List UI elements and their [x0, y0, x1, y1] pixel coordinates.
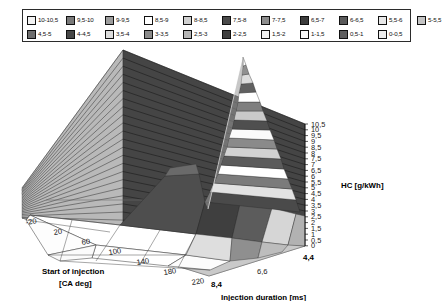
legend-label: 0-0,5: [389, 30, 402, 38]
legend-label: 4-4,5: [77, 30, 90, 38]
legend-item: 7,5-8: [222, 14, 261, 27]
legend-item: 3-3,5: [144, 28, 183, 41]
z-tick-label: 0: [311, 241, 315, 250]
legend-label: 8-8,5: [194, 16, 207, 24]
legend-label: 9,5-10: [77, 16, 94, 24]
legend-item: 0-0,5: [378, 28, 417, 41]
legend-label: 5,5-6: [389, 16, 402, 24]
x-tick-label: 60: [81, 237, 91, 247]
legend-label: 8,5-9: [155, 16, 168, 24]
legend-label: 1,5-2: [272, 30, 285, 38]
y-tick-label: 8,4: [211, 280, 223, 289]
legend-swatch-icon: [417, 16, 426, 25]
legend-item: 9,5-10: [66, 14, 105, 27]
legend-item: 4,5-5: [27, 28, 66, 41]
surface-plot-svg: 10,5 10 9,5 9 8,5 8 7,5 7 6,5 6 5,5 5 4,…: [0, 42, 432, 301]
legend-label: 0,5-1: [350, 30, 363, 38]
legend-item: 1,5-2: [261, 28, 300, 41]
legend-swatch-icon: [222, 16, 231, 25]
legend-item: 1-1,5: [300, 28, 339, 41]
x-tick-label: 20: [53, 227, 63, 237]
legend-row-1: 10-10,5 9,5-10 9-9,5 8,5-9 8-8,5 7,5-8 7…: [27, 13, 407, 27]
legend-item: 2,5-3: [183, 28, 222, 41]
legend-item: 8-8,5: [183, 14, 222, 27]
legend-swatch-icon: [66, 16, 75, 25]
z-axis-title: HC [g/kWh]: [341, 181, 384, 190]
legend-swatch-icon: [66, 30, 75, 39]
legend-swatch-icon: [261, 16, 270, 25]
legend-swatch-icon: [378, 16, 387, 25]
legend-swatch-icon: [105, 30, 114, 39]
legend-item: 7-7,5: [261, 14, 300, 27]
legend-item: 5,5-6: [378, 14, 417, 27]
y-tick-label: 6,6: [257, 267, 268, 276]
legend-item: 4-4,5: [66, 28, 105, 41]
legend-label: 6-6,5: [350, 16, 363, 24]
legend-label: 1-1,5: [311, 30, 324, 38]
x-tick-label: 140: [136, 256, 150, 267]
legend-swatch-icon: [339, 16, 348, 25]
x-tick-label: -20: [25, 216, 37, 227]
legend-swatch-icon: [300, 30, 309, 39]
legend-label: 9-9,5: [116, 16, 129, 24]
legend-item: 3,5-4: [105, 28, 144, 41]
legend-swatch-icon: [27, 16, 36, 25]
z-axis: 10,5 10 9,5 9 8,5 8 7,5 7 6,5 6 5,5 5 4,…: [305, 120, 384, 251]
x-axis-title-line2: [CA deg]: [59, 279, 92, 288]
x-tick-label: 220: [191, 276, 205, 287]
legend-item: 9-9,5: [105, 14, 144, 27]
legend-item: 5-5,5: [417, 14, 446, 27]
legend: 10-10,5 9,5-10 9-9,5 8,5-9 8-8,5 7,5-8 7…: [22, 9, 411, 42]
legend-item: 2-2,5: [222, 28, 261, 41]
legend-swatch-icon: [27, 30, 36, 39]
y-tick-label: 4,4: [303, 253, 315, 262]
legend-swatch-icon: [378, 30, 387, 39]
legend-item: 10-10,5: [27, 14, 66, 27]
legend-item: 6-6,5: [339, 14, 378, 27]
legend-swatch-icon: [183, 30, 192, 39]
x-axis-title-line1: Start of injection: [42, 267, 104, 276]
x-tick-label: 180: [163, 266, 177, 277]
left-wall: [22, 50, 123, 228]
legend-label: 3,5-4: [116, 30, 129, 38]
legend-swatch-icon: [144, 16, 153, 25]
legend-label: 2-2,5: [233, 30, 246, 38]
legend-label: 4,5-5: [38, 30, 51, 38]
legend-label: 3-3,5: [155, 30, 168, 38]
surface-plot-area: 10,5 10 9,5 9 8,5 8 7,5 7 6,5 6 5,5 5 4,…: [0, 42, 432, 301]
legend-swatch-icon: [183, 16, 192, 25]
legend-swatch-icon: [339, 30, 348, 39]
legend-label: 2,5-3: [194, 30, 207, 38]
legend-item: 6,5-7: [300, 14, 339, 27]
legend-swatch-icon: [105, 16, 114, 25]
legend-label: 5-5,5: [428, 16, 441, 24]
legend-swatch-icon: [222, 30, 231, 39]
legend-item: 8,5-9: [144, 14, 183, 27]
legend-swatch-icon: [261, 30, 270, 39]
legend-label: 10-10,5: [38, 16, 58, 24]
legend-label: 7,5-8: [233, 16, 246, 24]
legend-item: 0,5-1: [339, 28, 378, 41]
legend-label: 6,5-7: [311, 16, 324, 24]
legend-swatch-icon: [300, 16, 309, 25]
legend-swatch-icon: [144, 30, 153, 39]
y-axis-title: Injection duration [ms]: [221, 293, 306, 301]
legend-label: 7-7,5: [272, 16, 285, 24]
legend-row-2: 4,5-5 4-4,5 3,5-4 3-3,5 2,5-3 2-2,5 1,5-…: [27, 27, 407, 41]
